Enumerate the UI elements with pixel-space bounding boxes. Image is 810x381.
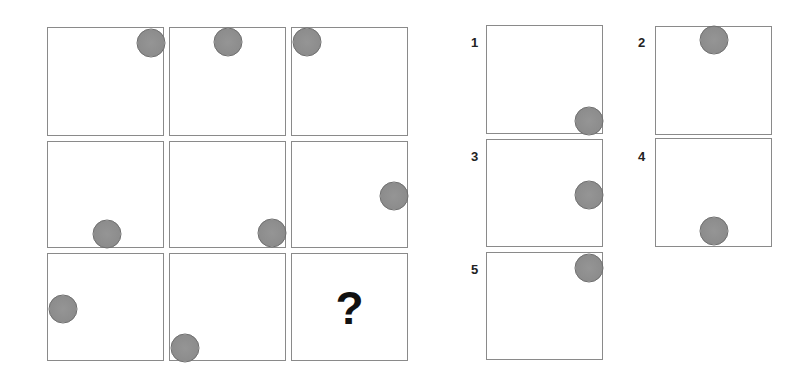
matrix-cell-r1-c1 <box>47 27 164 136</box>
question-mark: ? <box>292 282 407 334</box>
circle-icon <box>171 334 200 363</box>
option-label: 1 <box>471 36 478 50</box>
circle-icon <box>575 254 604 283</box>
circle-icon <box>380 182 409 211</box>
matrix-cell-r3-c3: ? <box>291 253 408 361</box>
answer-option-4[interactable] <box>655 138 772 247</box>
answer-option-2[interactable] <box>655 26 772 135</box>
circle-icon <box>137 29 166 58</box>
matrix-cell-r2-c1 <box>47 141 164 248</box>
matrix-cell-r2-c3 <box>291 141 408 248</box>
circle-icon <box>575 181 604 210</box>
matrix-cell-r1-c2 <box>169 27 286 136</box>
option-label: 4 <box>638 150 645 164</box>
circle-icon <box>575 107 604 136</box>
circle-icon <box>293 28 322 57</box>
circle-icon <box>258 219 287 248</box>
matrix-cell-r3-c1 <box>47 253 164 361</box>
option-label: 2 <box>638 36 645 50</box>
circle-icon <box>700 217 729 246</box>
option-label: 5 <box>471 263 478 277</box>
answer-option-1[interactable] <box>486 25 603 134</box>
circle-icon <box>93 220 122 249</box>
circle-icon <box>49 295 78 324</box>
answer-option-5[interactable] <box>486 252 603 360</box>
circle-icon <box>700 26 729 55</box>
matrix-cell-r2-c2 <box>169 141 286 248</box>
option-label: 3 <box>471 150 478 164</box>
answer-option-3[interactable] <box>486 139 603 247</box>
circle-icon <box>214 28 243 57</box>
matrix-cell-r1-c3 <box>291 27 408 136</box>
matrix-cell-r3-c2 <box>169 253 286 361</box>
